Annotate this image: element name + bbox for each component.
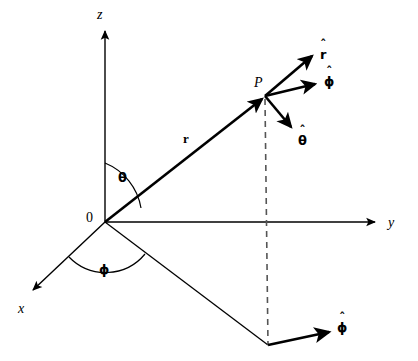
phi-hat-label-at-base: ˆ ϕ xyxy=(337,321,347,334)
phi-hat-caret-at-base: ˆ xyxy=(339,312,345,324)
phi-angle-label: ϕ xyxy=(99,263,109,276)
theta-angle-label: θ xyxy=(118,171,127,184)
theta-hat-vector xyxy=(265,96,291,127)
phi-hat-caret-at-p: ˆ xyxy=(326,66,332,78)
phi-hat-vector-at-base xyxy=(268,332,329,345)
z-axis-label: z xyxy=(97,8,102,22)
position-vector-r xyxy=(105,99,262,222)
position-vector-label: r xyxy=(183,132,189,145)
diagram-canvas xyxy=(0,0,418,361)
point-p-label: P xyxy=(254,76,263,90)
x-axis-label: x xyxy=(18,302,24,316)
theta-hat-caret: ˆ xyxy=(299,125,305,137)
y-axis-label: y xyxy=(388,216,394,230)
origin-label: 0 xyxy=(86,211,93,225)
spherical-coordinates-diagram: z y x 0 P r θ ϕ ˆ r ˆ ϕ ˆ θ ˆ ϕ xyxy=(0,0,418,361)
r-hat-caret: ˆ xyxy=(320,39,326,51)
x-axis-line xyxy=(33,222,105,290)
theta-hat-label: ˆ θ xyxy=(298,134,307,147)
ground-projection-line xyxy=(105,222,268,345)
phi-hat-label-at-p: ˆ ϕ xyxy=(324,75,334,88)
r-hat-label: ˆ r xyxy=(320,48,326,61)
